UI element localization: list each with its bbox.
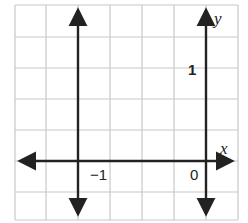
x-axis-label: x [220,140,228,157]
graph-canvas [0,0,248,223]
grid [15,5,238,220]
y-axis-label: y [214,10,222,27]
x-tick-label-neg1: −1 [90,167,107,182]
y-tick-label-1: 1 [188,62,196,77]
origin-label: 0 [190,167,198,182]
